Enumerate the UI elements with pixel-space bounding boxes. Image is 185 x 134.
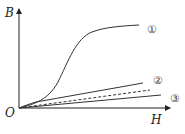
curve-2-label: ② <box>153 74 163 87</box>
x-axis-label: H <box>150 113 162 127</box>
y-axis-label: B <box>4 6 14 20</box>
curve-1 <box>19 25 139 108</box>
bh-diagram: B H O ① ② ③ <box>0 0 185 134</box>
curve-reference-dashed <box>19 90 150 108</box>
origin-label: O <box>5 106 15 120</box>
curve-2 <box>19 83 143 108</box>
curve-1-label: ① <box>147 23 157 36</box>
curve-3-label: ③ <box>170 92 180 105</box>
